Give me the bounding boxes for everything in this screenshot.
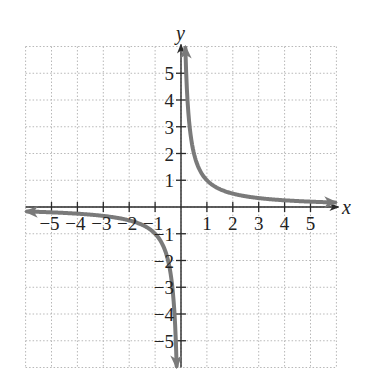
y-tick-label: −1 bbox=[154, 224, 174, 245]
y-tick-label: 4 bbox=[165, 90, 175, 111]
hyperbola-chart: −5−4−3−2−112345−5−4−3−2−112345 x y bbox=[0, 0, 375, 382]
y-tick-label: 3 bbox=[165, 117, 175, 138]
x-tick-label: 1 bbox=[202, 213, 212, 234]
x-tick-label: 4 bbox=[280, 213, 290, 234]
x-tick-label: −4 bbox=[65, 213, 86, 234]
y-tick-label: −2 bbox=[154, 251, 174, 272]
y-axis-label: y bbox=[174, 22, 185, 45]
x-tick-label: −5 bbox=[39, 213, 59, 234]
y-tick-label: 5 bbox=[165, 63, 175, 84]
y-tick-label: −5 bbox=[154, 331, 174, 352]
y-tick-label: 2 bbox=[165, 144, 175, 165]
y-tick-label: −3 bbox=[154, 277, 174, 298]
axes bbox=[26, 45, 339, 368]
x-tick-label: −3 bbox=[91, 213, 111, 234]
curve-right-branch bbox=[185, 48, 335, 203]
x-tick-label: 5 bbox=[306, 213, 316, 234]
x-tick-label: −2 bbox=[117, 213, 137, 234]
y-tick-label: 1 bbox=[165, 170, 175, 191]
x-tick-label: 3 bbox=[254, 213, 264, 234]
y-tick-label: −4 bbox=[154, 304, 175, 325]
x-axis-label: x bbox=[341, 196, 351, 218]
x-tick-label: 2 bbox=[228, 213, 238, 234]
